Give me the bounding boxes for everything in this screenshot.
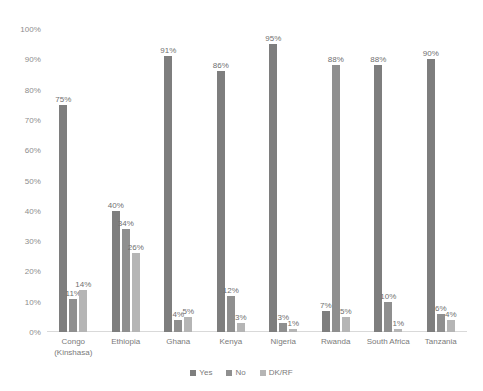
y-axis-tick-label: 90%: [25, 55, 41, 64]
bar-slot: 5%: [342, 29, 350, 332]
x-axis-category-labels: Congo(Kinshasa)EthiopiaGhanaKenyaNigeria…: [47, 336, 467, 358]
x-axis-category-label: Ghana: [152, 336, 205, 358]
y-axis-tick-label: 80%: [25, 85, 41, 94]
bar[interactable]: 14%: [79, 290, 87, 332]
bar-slot: 1%: [394, 29, 402, 332]
bar[interactable]: 95%: [269, 44, 277, 332]
x-axis-category-label: South Africa: [362, 336, 415, 358]
bar-slot: 12%: [227, 29, 235, 332]
legend-item[interactable]: DK/RF: [260, 368, 293, 377]
bar[interactable]: 3%: [237, 323, 245, 332]
bar-slot: 5%: [184, 29, 192, 332]
legend-swatch-icon: [190, 370, 196, 376]
bar-slot: 88%: [374, 29, 382, 332]
bar[interactable]: 90%: [427, 59, 435, 332]
bar[interactable]: 3%: [279, 323, 287, 332]
bar-cluster: 75%11%14%: [47, 29, 100, 332]
y-axis-tick-label: 60%: [25, 146, 41, 155]
legend-item[interactable]: No: [226, 368, 245, 377]
plot-area: 100%90%80%70%60%50%40%30%20%10%0% 75%11%…: [47, 29, 467, 332]
y-axis-tick-label: 20%: [25, 267, 41, 276]
legend-label: No: [235, 368, 245, 377]
legend-swatch-icon: [226, 370, 232, 376]
bar[interactable]: 5%: [184, 317, 192, 332]
bar-slot: 4%: [447, 29, 455, 332]
bar-slot: 14%: [79, 29, 87, 332]
bar-value-label: 5%: [182, 308, 194, 316]
x-axis-category-label: Ethiopia: [100, 336, 153, 358]
chart-legend: YesNoDK/RF: [0, 368, 483, 377]
bar[interactable]: 5%: [342, 317, 350, 332]
bar-value-label: 4%: [445, 311, 457, 319]
bar-cluster: 7%88%5%: [310, 29, 363, 332]
bar[interactable]: 75%: [59, 105, 67, 332]
legend-item[interactable]: Yes: [190, 368, 212, 377]
y-axis-tick-label: 30%: [25, 237, 41, 246]
bar-cluster: 86%12%3%: [205, 29, 258, 332]
bar-value-label: 14%: [75, 281, 91, 289]
bar-slot: 91%: [164, 29, 172, 332]
x-axis-category-label: Nigeria: [257, 336, 310, 358]
bar-slot: 88%: [332, 29, 340, 332]
y-axis-tick-label: 70%: [25, 115, 41, 124]
bar-value-label: 26%: [128, 244, 144, 252]
bar-slot: 34%: [122, 29, 130, 332]
bar[interactable]: 10%: [384, 302, 392, 332]
x-axis-category-label: Tanzania: [415, 336, 468, 358]
bar[interactable]: 40%: [112, 211, 120, 332]
bar-slot: 75%: [59, 29, 67, 332]
bar-value-label: 3%: [235, 314, 247, 322]
bar-clusters: 75%11%14%40%34%26%91%4%5%86%12%3%95%3%1%…: [47, 29, 467, 332]
bar-cluster: 40%34%26%: [100, 29, 153, 332]
bar-slot: 10%: [384, 29, 392, 332]
bar[interactable]: 12%: [227, 296, 235, 332]
x-axis-category-label: Congo(Kinshasa): [47, 336, 100, 358]
bar[interactable]: 91%: [164, 56, 172, 332]
bar-value-label: 1%: [392, 320, 404, 328]
x-axis-category-label: Kenya: [205, 336, 258, 358]
bar-slot: 3%: [279, 29, 287, 332]
bar-value-label: 5%: [340, 308, 352, 316]
bar-slot: 6%: [437, 29, 445, 332]
legend-label: DK/RF: [269, 368, 293, 377]
bar-slot: 26%: [132, 29, 140, 332]
bar-slot: 40%: [112, 29, 120, 332]
bar-slot: 3%: [237, 29, 245, 332]
bar-slot: 95%: [269, 29, 277, 332]
y-axis-tick-label: 50%: [25, 176, 41, 185]
bar-value-label: 1%: [287, 320, 299, 328]
bar-slot: 90%: [427, 29, 435, 332]
y-axis-tick-label: 10%: [25, 297, 41, 306]
legend-swatch-icon: [260, 370, 266, 376]
y-axis-tick-label: 40%: [25, 206, 41, 215]
bar[interactable]: 7%: [322, 311, 330, 332]
x-axis-category-label: Rwanda: [310, 336, 363, 358]
bar-cluster: 95%3%1%: [257, 29, 310, 332]
bar[interactable]: 26%: [132, 253, 140, 332]
bar[interactable]: 88%: [332, 65, 340, 332]
bar-value-label: 7%: [320, 302, 332, 310]
bar[interactable]: 11%: [69, 299, 77, 332]
bar-cluster: 88%10%1%: [362, 29, 415, 332]
bar[interactable]: 6%: [437, 314, 445, 332]
bar-chart: 100%90%80%70%60%50%40%30%20%10%0% 75%11%…: [0, 0, 483, 391]
bar-slot: 4%: [174, 29, 182, 332]
bar-slot: 1%: [289, 29, 297, 332]
bar[interactable]: 1%: [394, 329, 402, 332]
bar[interactable]: 4%: [174, 320, 182, 332]
bar[interactable]: 1%: [289, 329, 297, 332]
y-axis-tick-label: 0%: [29, 328, 41, 337]
y-axis-tick-label: 100%: [20, 25, 41, 34]
bar[interactable]: 4%: [447, 320, 455, 332]
legend-label: Yes: [199, 368, 212, 377]
bar-cluster: 91%4%5%: [152, 29, 205, 332]
bar-slot: 7%: [322, 29, 330, 332]
bar-cluster: 90%6%4%: [415, 29, 468, 332]
